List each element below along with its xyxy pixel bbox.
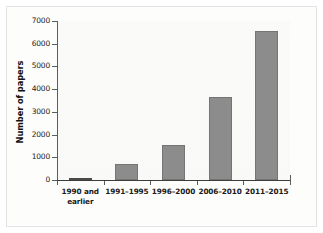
x-tick-label: 1991–1995 [104,187,151,197]
y-axis-line [57,21,58,181]
x-tick-mark [197,181,198,185]
y-tick-mark [52,135,57,136]
x-tick-label: 2011–2015 [243,187,290,197]
x-tick-label: 1996–2000 [150,187,197,197]
y-tick-mark [52,21,57,22]
y-axis-title-text: Number of papers [15,61,25,144]
y-tick-label: 0 [45,176,50,184]
x-tick-mark [104,181,105,185]
x-tick-mark [243,181,244,185]
y-tick-label: 3000 [32,108,50,116]
bar [162,145,185,180]
bar [209,97,232,180]
bar [255,31,278,180]
y-tick-mark [52,112,57,113]
y-tick-label: 5000 [32,62,50,70]
bar [69,178,92,180]
y-tick-mark [52,66,57,67]
y-tick-label: 7000 [32,17,50,25]
x-tick-mark [57,181,58,185]
y-tick-label: 4000 [32,85,50,93]
y-tick-label: 6000 [32,40,50,48]
x-tick-label: 2006–2010 [197,187,244,197]
x-tick-mark [290,181,291,185]
y-tick-mark [52,157,57,158]
x-axis-line [57,180,291,181]
y-tick-label: 1000 [32,153,50,161]
chart-figure: 01000200030004000500060007000 1990 and e… [0,0,323,233]
x-tick-mark [150,181,151,185]
y-tick-label: 2000 [32,131,50,139]
bar [115,164,138,180]
y-tick-mark [52,89,57,90]
x-tick-label: 1990 and earlier [57,187,104,206]
y-tick-mark [52,44,57,45]
y-axis-title: Number of papers [13,56,27,148]
